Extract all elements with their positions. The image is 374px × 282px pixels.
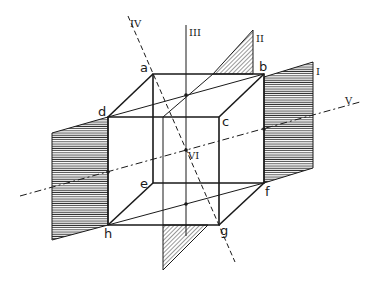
center-label-VI: VI [187, 150, 199, 161]
vertex-label-b: b [259, 59, 267, 74]
axis-label-III: III [189, 27, 201, 38]
plane-II [163, 30, 253, 270]
vertex-label-h: h [104, 226, 112, 241]
vertex-label-a: a [140, 60, 148, 75]
vertex-label-e: e [140, 176, 148, 191]
plane-label-II: II [256, 33, 264, 44]
vertex-label-d: d [98, 104, 106, 119]
vertex-label-c: c [222, 114, 229, 129]
vertex-label-f: f [265, 184, 270, 199]
axis-label-IV: IV [130, 18, 142, 29]
plane-label-I: I [316, 66, 320, 77]
vertex-label-g: g [220, 223, 228, 238]
cube-symmetry-diagram: a b c d e f g h I II III IV V VI [0, 0, 374, 282]
axis-label-V: V [344, 95, 353, 106]
